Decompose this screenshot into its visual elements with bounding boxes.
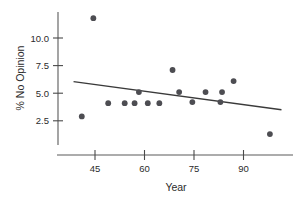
y-tick-label-10: 10.0 [31, 33, 50, 44]
data-point [122, 100, 128, 106]
y-tick-label-7-5: 7.5 [36, 60, 49, 71]
y-tick-label-5: 5.0 [36, 88, 49, 99]
x-tick-label-60: 60 [139, 163, 150, 174]
x-tick-label-45: 45 [90, 163, 101, 174]
data-point [231, 78, 237, 84]
data-point [219, 89, 225, 95]
data-point [267, 131, 273, 137]
regression-line [74, 82, 282, 110]
y-tick-label-2-5: 2.5 [36, 115, 49, 126]
plot-canvas: 10.0 7.5 5.0 2.5 % No Opinion 45 60 75 9… [0, 0, 299, 197]
data-point [189, 99, 195, 105]
x-tick-label-90: 90 [238, 163, 249, 174]
data-point [218, 99, 224, 105]
data-point [156, 100, 162, 106]
y-axis-group: 10.0 7.5 5.0 2.5 % No Opinion [14, 12, 63, 145]
data-point [170, 67, 176, 73]
data-point [176, 89, 182, 95]
data-point [132, 100, 138, 106]
trend-line-segment [74, 82, 282, 110]
x-axis-group: 45 60 75 90 Year [57, 150, 293, 193]
data-point [203, 89, 209, 95]
data-point [105, 100, 111, 106]
data-point [136, 89, 142, 95]
data-point [145, 100, 151, 106]
data-point [90, 15, 96, 21]
scatter-plot-figure: 10.0 7.5 5.0 2.5 % No Opinion 45 60 75 9… [0, 0, 299, 197]
y-axis-title: % No Opinion [14, 45, 26, 110]
data-point [79, 113, 85, 119]
x-tick-label-75: 75 [189, 163, 200, 174]
x-axis-title: Year [165, 181, 187, 193]
data-points-group [79, 15, 273, 137]
